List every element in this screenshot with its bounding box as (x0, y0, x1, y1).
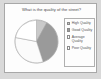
chart-legend: High Quality Good Quality Average Qualit… (64, 18, 95, 67)
legend-item-good-quality[interactable]: Good Quality (67, 28, 93, 32)
pie-chart (14, 19, 59, 64)
legend-label-poor-quality: Poor Quality (72, 46, 91, 50)
pie-slice-group (15, 20, 58, 63)
pie-plot-area (9, 17, 63, 72)
legend-swatch-high-quality (67, 22, 70, 25)
legend-label-average-quality: Average Quality (72, 35, 93, 43)
legend-swatch-poor-quality (67, 46, 70, 49)
pie-chart-svg (14, 19, 59, 64)
legend-swatch-average-quality (67, 35, 70, 38)
legend-swatch-good-quality (67, 28, 70, 31)
screenshot-root: What is the quality of the street? High … (0, 0, 101, 79)
legend-label-high-quality: High Quality (72, 21, 91, 25)
chart-card: What is the quality of the street? High … (4, 3, 97, 73)
legend-item-average-quality[interactable]: Average Quality (67, 35, 93, 43)
legend-item-poor-quality[interactable]: Poor Quality (67, 46, 93, 50)
legend-item-high-quality[interactable]: High Quality (67, 21, 93, 25)
pie-slice[interactable] (16, 20, 37, 41)
legend-label-good-quality: Good Quality (72, 28, 93, 32)
chart-title: What is the quality of the street? (5, 7, 98, 12)
